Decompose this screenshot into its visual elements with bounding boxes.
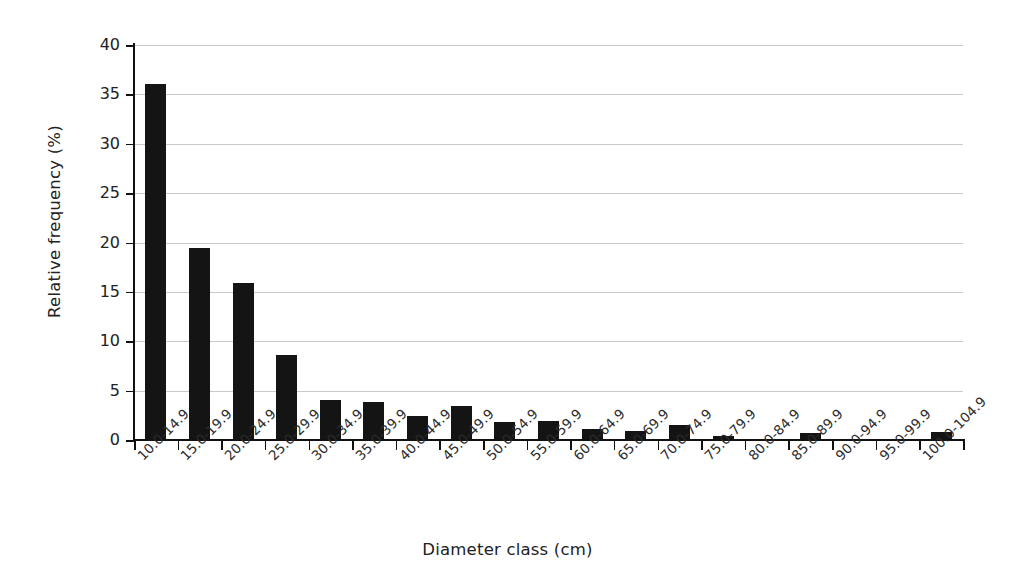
- x-axis-tick: [483, 441, 485, 450]
- y-axis-tick: [126, 94, 134, 96]
- x-axis-title: Diameter class (cm): [0, 540, 1015, 559]
- y-axis-title: Relative frequency (%): [45, 72, 64, 372]
- y-axis-tick: [126, 292, 134, 294]
- y-axis-tick-label: 10: [80, 333, 120, 349]
- x-axis-tick: [527, 441, 529, 450]
- y-axis-tick: [126, 440, 134, 442]
- x-axis-tick: [396, 441, 398, 450]
- x-axis-tick: [265, 441, 267, 450]
- y-axis-tick-label: 30: [80, 136, 120, 152]
- gridline: [134, 391, 963, 392]
- y-axis-tick-label: 35: [80, 86, 120, 102]
- plot-area: [134, 45, 963, 440]
- x-axis-tick: [614, 441, 616, 450]
- y-axis-tick: [126, 144, 134, 146]
- gridline: [134, 243, 963, 244]
- y-axis-tick-label: 40: [80, 37, 120, 53]
- y-axis-tick: [126, 193, 134, 195]
- bar: [189, 248, 210, 440]
- y-axis-tick-label: 15: [80, 284, 120, 300]
- x-axis-tick: [832, 441, 834, 450]
- y-axis-tick-label: 5: [80, 383, 120, 399]
- x-axis-tick: [745, 441, 747, 450]
- x-axis-tick: [963, 441, 965, 450]
- y-axis-tick-label: 20: [80, 235, 120, 251]
- bar: [233, 283, 254, 440]
- bar: [145, 84, 166, 440]
- y-axis-tick: [126, 45, 134, 47]
- y-axis-tick: [126, 243, 134, 245]
- gridline: [134, 292, 963, 293]
- gridline: [134, 341, 963, 342]
- y-axis-tick: [126, 391, 134, 393]
- gridline: [134, 193, 963, 194]
- gridline: [134, 144, 963, 145]
- y-axis-tick: [126, 341, 134, 343]
- x-axis-tick: [876, 441, 878, 450]
- bar-chart-figure: Relative frequency (%) 0510152025303540 …: [0, 0, 1015, 573]
- y-axis-tick-labels: 0510152025303540: [72, 0, 120, 573]
- gridline: [134, 45, 963, 46]
- gridline: [134, 94, 963, 95]
- y-axis-tick-label: 0: [80, 432, 120, 448]
- y-axis-tick-label: 25: [80, 185, 120, 201]
- x-axis-tick: [134, 441, 136, 450]
